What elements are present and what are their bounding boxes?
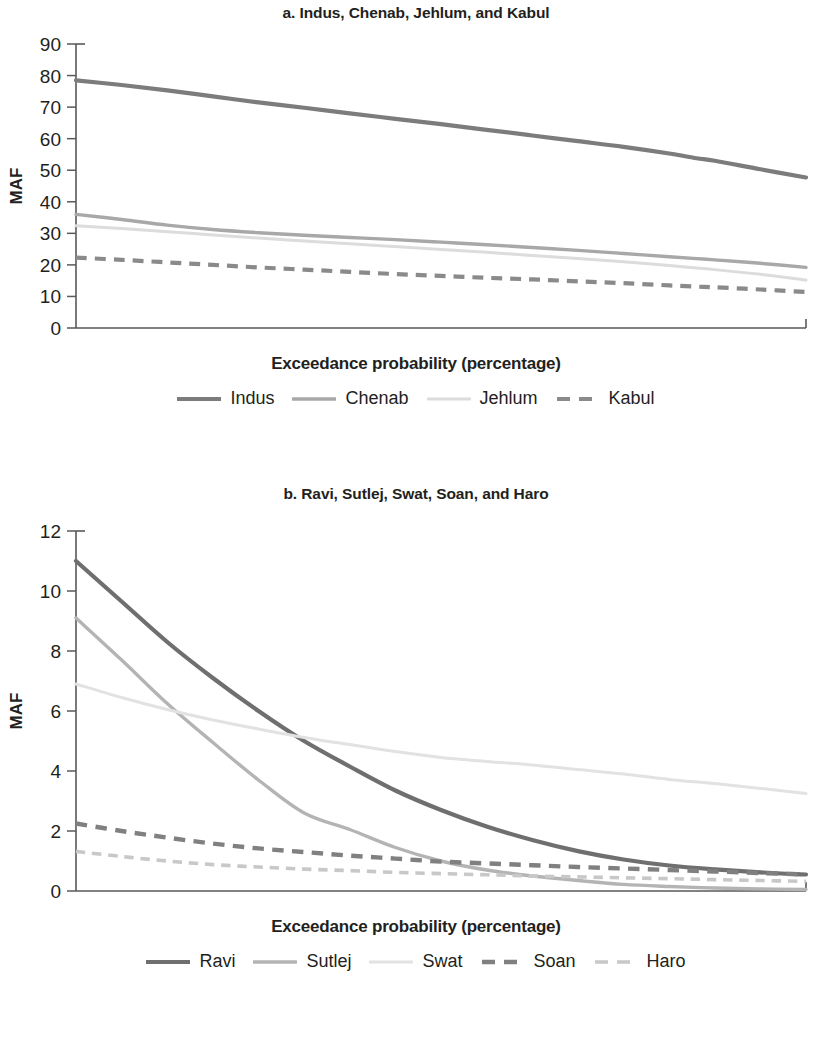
legend-swatch-soan: [481, 955, 525, 969]
y-tick-label: 8: [50, 641, 61, 662]
y-tick-label: 40: [40, 192, 61, 213]
y-axis-title: MAF: [7, 693, 26, 730]
legend-swatch-chenab: [292, 392, 336, 406]
legend-swatch-jehlum: [427, 392, 471, 406]
legend-swatch-ravi: [146, 955, 190, 969]
legend-label: Jehlum: [480, 388, 538, 409]
y-tick-label: 30: [40, 223, 61, 244]
legend-item-indus[interactable]: Indus: [177, 388, 274, 409]
panel-a-title: a. Indus, Chenab, Jehlum, and Kabul: [0, 0, 832, 22]
legend-swatch-kabul: [556, 392, 600, 406]
legend-item-swat[interactable]: Swat: [369, 951, 462, 972]
legend-swatch-swat: [369, 955, 413, 969]
legend-swatch-haro: [594, 955, 638, 969]
legend-label: Haro: [647, 951, 686, 972]
series-line-swat: [76, 684, 806, 794]
legend-item-haro[interactable]: Haro: [594, 951, 686, 972]
series-line-kabul: [76, 258, 806, 292]
y-tick-label: 0: [50, 318, 61, 338]
legend-label: Chenab: [345, 388, 408, 409]
legend-label: Sutlej: [306, 951, 351, 972]
legend-swatch-sutlej: [253, 955, 297, 969]
panel-a-svg: 0102030405060708090102030405060708090MAF: [0, 28, 832, 338]
legend-label: Soan: [534, 951, 576, 972]
legend-label: Indus: [230, 388, 274, 409]
panel-a-x-axis-title: Exceedance probability (percentage): [0, 354, 832, 374]
y-tick-label: 12: [40, 521, 61, 542]
y-tick-label: 2: [50, 821, 61, 842]
panel-b-legend: RaviSutlejSwatSoanHaro: [0, 951, 832, 972]
y-tick-label: 70: [40, 97, 61, 118]
y-axis-title: MAF: [7, 168, 26, 205]
legend-label: Kabul: [609, 388, 655, 409]
series-line-chenab: [76, 214, 806, 267]
legend-item-chenab[interactable]: Chenab: [292, 388, 408, 409]
legend-label: Ravi: [199, 951, 235, 972]
legend-swatch-indus: [177, 392, 221, 406]
y-tick-label: 10: [40, 581, 61, 602]
legend-item-ravi[interactable]: Ravi: [146, 951, 235, 972]
y-tick-label: 80: [40, 66, 61, 87]
panel-a-legend: IndusChenabJehlumKabul: [0, 388, 832, 409]
legend-item-kabul[interactable]: Kabul: [556, 388, 655, 409]
y-tick-label: 90: [40, 34, 61, 55]
y-tick-label: 60: [40, 129, 61, 150]
panel-b-x-axis-title: Exceedance probability (percentage): [0, 917, 832, 937]
y-tick-label: 0: [50, 881, 61, 901]
legend-item-jehlum[interactable]: Jehlum: [427, 388, 538, 409]
series-line-indus: [76, 80, 806, 177]
panel-b-title: b. Ravi, Sutlej, Swat, Soan, and Haro: [0, 478, 832, 503]
y-tick-label: 10: [40, 286, 61, 307]
chart-panel-a: a. Indus, Chenab, Jehlum, and Kabul 0102…: [0, 0, 832, 460]
panel-b-plot-area: 024681012102030405060708090MAF: [0, 509, 832, 901]
y-tick-label: 6: [50, 701, 61, 722]
y-tick-label: 20: [40, 255, 61, 276]
series-line-jehlum: [76, 226, 806, 280]
panel-b-svg: 024681012102030405060708090MAF: [0, 509, 832, 901]
chart-panel-b: b. Ravi, Sutlej, Swat, Soan, and Haro 02…: [0, 478, 832, 1041]
y-tick-label: 50: [40, 160, 61, 181]
legend-item-sutlej[interactable]: Sutlej: [253, 951, 351, 972]
legend-item-soan[interactable]: Soan: [481, 951, 576, 972]
legend-label: Swat: [422, 951, 462, 972]
panel-a-plot-area: 0102030405060708090102030405060708090MAF: [0, 28, 832, 338]
y-tick-label: 4: [50, 761, 61, 782]
